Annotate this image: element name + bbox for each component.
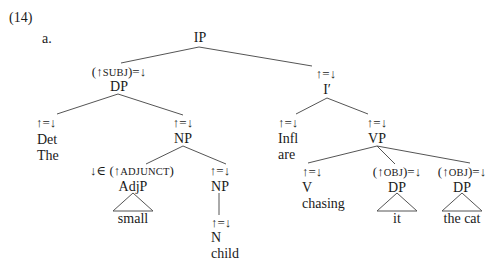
- annotation-ibar: ↑=↓: [316, 67, 336, 80]
- syntax-tree-figure: (14) a. IP (↑SUBJ)=↓ DP ↑=↓ Det The ↑=↓ …: [0, 0, 497, 262]
- word-the: The: [37, 149, 59, 163]
- branch-dp-np: [118, 94, 183, 115]
- annotation-n: ↑=↓: [211, 216, 231, 229]
- node-vp: VP: [368, 132, 386, 146]
- annotation-obj1: (↑OBJ)=↓: [373, 165, 421, 179]
- example-sublabel: a.: [42, 32, 52, 46]
- triangle-obj2: [442, 193, 482, 211]
- node-dp-obj2: DP: [453, 181, 471, 195]
- branch-ibar-infl: [296, 98, 327, 114]
- node-ibar: I′: [323, 83, 331, 97]
- branch-np-adjp: [146, 146, 183, 164]
- triangle-obj1: [377, 193, 417, 211]
- triangle-adjp: [113, 193, 153, 211]
- annotation-obj2: (↑OBJ)=↓: [438, 165, 486, 179]
- node-dp-subj: DP: [110, 80, 128, 94]
- node-v: V: [302, 181, 312, 195]
- branch-dp-det: [57, 94, 118, 114]
- node-n: N: [211, 231, 221, 245]
- annotation-v: ↑=↓: [302, 165, 322, 178]
- node-dp-obj1: DP: [388, 181, 406, 195]
- node-adjp: AdjP: [119, 180, 148, 194]
- word-small: small: [118, 212, 148, 226]
- example-number: (14): [9, 11, 32, 25]
- branch-ip-ibar: [199, 47, 312, 66]
- node-det: Det: [37, 133, 57, 147]
- annotation-np-upper: ↑=↓: [173, 116, 193, 129]
- word-the-cat: the cat: [444, 212, 481, 226]
- annotation-vp: ↑=↓: [367, 116, 387, 129]
- annotation-np-lower: ↑=↓: [210, 164, 230, 177]
- word-chasing: chasing: [302, 197, 345, 211]
- word-are: are: [278, 148, 295, 162]
- tree-branches: [0, 0, 497, 262]
- annotation-adjunct: ↓∈ (↑ADJUNCT): [90, 164, 174, 178]
- node-ip: IP: [194, 31, 206, 45]
- word-child: child: [211, 247, 239, 261]
- branch-ip-dp: [121, 47, 199, 63]
- word-it: it: [393, 212, 401, 226]
- branch-np-np: [183, 146, 226, 164]
- node-infl: Infl: [278, 132, 298, 146]
- annotation-infl: ↑=↓: [278, 116, 298, 129]
- branch-vp-v: [308, 146, 377, 163]
- node-np-upper: NP: [174, 132, 192, 146]
- annotation-subj: (↑SUBJ)=↓: [92, 65, 146, 79]
- annotation-det: ↑=↓: [36, 116, 56, 129]
- branch-ibar-vp: [327, 98, 368, 114]
- node-np-lower: NP: [211, 180, 229, 194]
